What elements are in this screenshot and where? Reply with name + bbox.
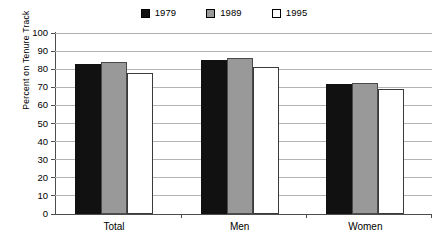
y-axis-tick-label: 10 — [37, 191, 48, 200]
legend-item-1979: 1979 — [141, 8, 177, 18]
plot-area: 1009080706050403020100 — [55, 33, 432, 214]
bar-men-1989 — [227, 58, 253, 214]
white-square-swatch — [272, 9, 281, 18]
x-axis-label-women: Women — [348, 221, 382, 232]
x-axis-label-total: Total — [103, 221, 124, 232]
y-axis-tick — [51, 214, 55, 215]
legend-item-1995: 1995 — [272, 8, 308, 18]
y-axis-tick — [51, 177, 55, 178]
legend-label-1995: 1995 — [286, 8, 308, 18]
bar-women-1995 — [378, 89, 404, 214]
y-axis-tick — [51, 69, 55, 70]
y-axis-tick-label: 50 — [37, 119, 48, 128]
y-axis-tick — [51, 141, 55, 142]
x-axis-end-tick — [431, 214, 432, 218]
x-axis-tick — [306, 214, 307, 218]
x-axis-label-men: Men — [230, 221, 249, 232]
y-axis-tick — [51, 105, 55, 106]
y-axis-tick — [51, 159, 55, 160]
bar-women-1979 — [326, 84, 352, 214]
x-axis-tick — [181, 214, 182, 218]
x-axis-line — [55, 214, 432, 215]
gridline — [55, 51, 432, 52]
gray-square-swatch — [206, 9, 215, 18]
gridline — [55, 33, 432, 34]
y-axis-tick-label: 80 — [37, 64, 48, 73]
legend-item-1989: 1989 — [206, 8, 242, 18]
y-axis-title: Percent on Tenure Track — [21, 0, 31, 150]
bar-men-1979 — [201, 60, 227, 214]
chart-legend: 1979 1989 1995 — [0, 8, 448, 18]
y-axis-tick — [51, 123, 55, 124]
bar-total-1989 — [101, 62, 127, 214]
legend-label-1989: 1989 — [220, 8, 242, 18]
bar-women-1989 — [352, 83, 378, 214]
y-axis-tick — [51, 87, 55, 88]
black-square-swatch — [141, 9, 150, 18]
y-axis-tick-label: 20 — [37, 173, 48, 182]
y-axis-tick-label: 90 — [37, 46, 48, 55]
y-axis-tick-label: 0 — [43, 209, 48, 218]
legend-label-1979: 1979 — [155, 8, 177, 18]
bar-total-1979 — [75, 64, 101, 214]
y-axis-tick — [51, 33, 55, 34]
y-axis-tick-label: 40 — [37, 137, 48, 146]
bar-men-1995 — [253, 67, 279, 214]
bar-total-1995 — [127, 73, 153, 214]
y-axis-tick-label: 60 — [37, 100, 48, 109]
y-axis-tick-label: 70 — [37, 82, 48, 91]
y-axis-tick-label: 30 — [37, 155, 48, 164]
y-axis-tick — [51, 51, 55, 52]
y-axis-tick — [51, 195, 55, 196]
chart-root: 1979 1989 1995 Percent on Tenure Track 1… — [0, 0, 448, 250]
y-axis-tick-label: 100 — [32, 28, 48, 37]
